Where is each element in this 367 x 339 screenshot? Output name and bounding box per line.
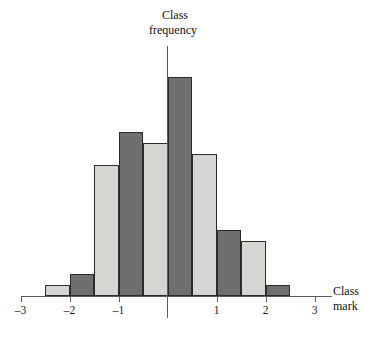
x-axis-tick-label: –1	[106, 303, 132, 317]
histogram-bar	[143, 143, 168, 296]
x-axis-tick-label: 3	[302, 303, 328, 317]
histogram-bar	[94, 165, 119, 296]
bar-series	[0, 0, 367, 339]
x-axis-tick-label: 2	[253, 303, 279, 317]
histogram-bar	[119, 132, 144, 296]
y-axis-line	[167, 46, 168, 318]
x-axis-tick	[119, 296, 120, 302]
x-axis-tick	[315, 296, 316, 302]
x-axis-tick	[217, 296, 218, 302]
histogram-bar	[217, 230, 242, 296]
x-axis-line	[22, 296, 332, 297]
x-axis-tick	[266, 296, 267, 302]
y-axis-title-line-1: Class	[145, 8, 205, 23]
x-axis-tick-label: –2	[57, 303, 83, 317]
histogram-bar	[192, 154, 217, 296]
x-axis-title: Class mark	[333, 284, 367, 314]
histogram-bar	[168, 77, 193, 296]
histogram-figure: –3–2–1123 Class frequency Class mark	[0, 0, 367, 339]
histogram-bar	[45, 285, 70, 296]
x-axis-title-line-2: mark	[333, 299, 367, 314]
x-axis-tick-label: 1	[204, 303, 230, 317]
x-axis-tick	[21, 296, 22, 302]
histogram-bar	[70, 274, 95, 296]
x-axis-tick-label: –3	[8, 303, 34, 317]
histogram-bar	[266, 285, 291, 296]
histogram-bar	[241, 241, 266, 296]
y-axis-title: Class frequency	[145, 8, 205, 38]
x-axis-title-line-1: Class	[333, 284, 367, 299]
x-axis-tick	[70, 296, 71, 302]
y-axis-title-line-2: frequency	[141, 23, 205, 38]
